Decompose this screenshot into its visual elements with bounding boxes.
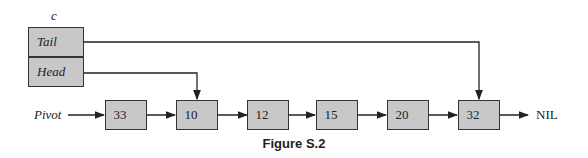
- list-node: 15: [316, 100, 358, 130]
- node-value: 32: [459, 107, 487, 123]
- node-value: 15: [317, 107, 345, 123]
- tail-label: Tail: [37, 34, 57, 50]
- head-label: Head: [37, 64, 65, 80]
- list-node: 33: [105, 100, 147, 130]
- node-value: 20: [388, 107, 416, 123]
- list-node: 32: [458, 100, 500, 130]
- list-node: 10: [176, 100, 218, 130]
- list-node: 12: [247, 100, 289, 130]
- pivot-label: Pivot: [34, 107, 61, 123]
- figure-caption: Figure S.2: [0, 136, 588, 151]
- list-label: c: [51, 8, 57, 24]
- nil-terminator: NIL: [536, 107, 558, 123]
- list-node: 20: [387, 100, 429, 130]
- node-value: 12: [248, 107, 276, 123]
- connector-arrows: [0, 0, 588, 158]
- head-field: Head: [28, 57, 84, 87]
- node-value: 10: [177, 107, 205, 123]
- tail-field: Tail: [28, 27, 84, 57]
- node-value: 33: [106, 107, 134, 123]
